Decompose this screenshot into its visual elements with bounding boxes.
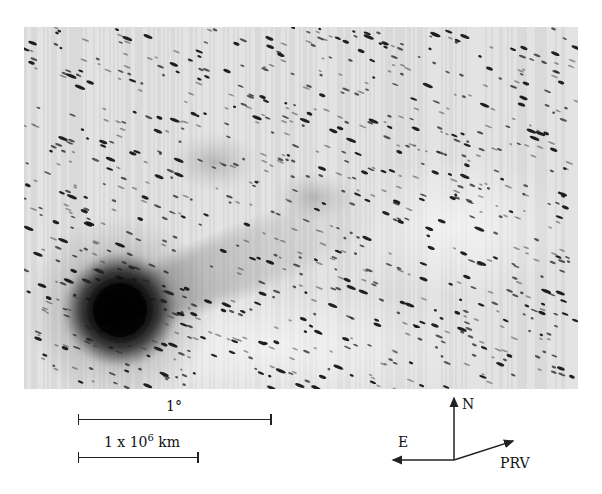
north-label: N [462, 396, 474, 412]
comet-photograph [24, 27, 578, 389]
scale-label-angular: 1° [166, 398, 182, 414]
comet-head [62, 252, 178, 368]
prv-label: PRV [500, 455, 530, 471]
scale-label-linear: 1 x 106 km [104, 432, 180, 450]
east-label: E [398, 434, 408, 450]
